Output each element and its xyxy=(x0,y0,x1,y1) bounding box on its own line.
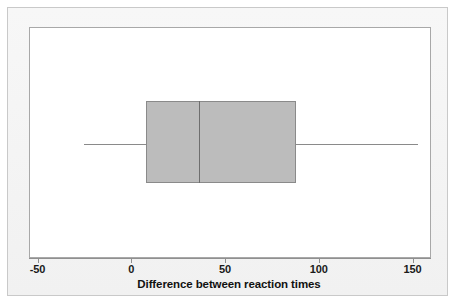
x-axis-title: Difference between reaction times xyxy=(0,278,458,290)
boxplot-screenshot: -50 0 50 100 150 Difference between reac… xyxy=(0,0,458,307)
x-axis-line xyxy=(29,258,431,259)
x-tick-label-100: 100 xyxy=(310,263,328,275)
plot-area xyxy=(29,27,431,258)
x-tick-label-150: 150 xyxy=(404,263,422,275)
x-tick-label-0: 0 xyxy=(128,263,134,275)
x-tick-label-50: 50 xyxy=(219,263,231,275)
x-tick-label--50: -50 xyxy=(30,263,45,275)
